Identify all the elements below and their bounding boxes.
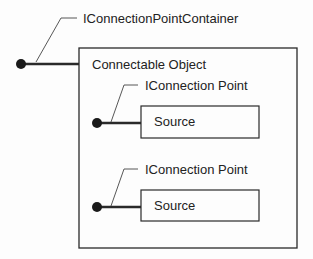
connectable-object-label: Connectable Object xyxy=(92,57,206,72)
connection-point-2-dot-icon xyxy=(92,202,102,212)
diagram-graphics xyxy=(0,0,313,259)
connection-point-1-leader xyxy=(111,85,138,122)
connectable-object-diagram: IConnectionPointContainer Connectable Ob… xyxy=(0,0,313,259)
connection-point-1-dot-icon xyxy=(92,118,102,128)
source-1-label: Source xyxy=(154,114,195,129)
container-interface-label: IConnectionPointContainer xyxy=(83,11,238,26)
container-interface-dot-icon xyxy=(16,59,26,69)
container-interface-leader xyxy=(36,18,77,62)
connection-point-2-interface-label: IConnection Point xyxy=(145,162,248,177)
source-2-label: Source xyxy=(154,198,195,213)
connection-point-2-leader xyxy=(111,169,138,206)
connection-point-1-interface-label: IConnection Point xyxy=(145,78,248,93)
